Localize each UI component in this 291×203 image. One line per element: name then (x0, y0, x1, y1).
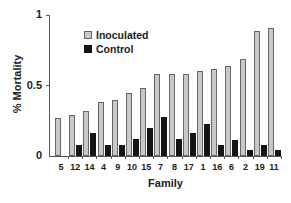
x-tickmark (182, 156, 183, 159)
x-tick-label: 12 (68, 162, 82, 172)
x-tick-label: 10 (125, 162, 139, 172)
x-tickmark (125, 156, 126, 159)
x-tick-label: 11 (267, 162, 281, 172)
bar-control (105, 145, 111, 156)
bar-inoculated (83, 111, 89, 156)
bar-inoculated (154, 74, 160, 156)
bar-inoculated (240, 59, 246, 156)
bar-control (176, 139, 182, 156)
x-tick-label: 9 (111, 162, 125, 172)
bar-inoculated (55, 118, 61, 156)
legend-item-control: Control (84, 42, 149, 56)
bar-control (161, 117, 167, 156)
bar-control (232, 140, 238, 156)
legend-item-inoculated: Inoculated (84, 28, 149, 42)
bar-inoculated (140, 88, 146, 156)
bar-inoculated (183, 74, 189, 156)
legend: Inoculated Control (84, 28, 149, 56)
bar-control (76, 145, 82, 156)
x-tick-label: 7 (153, 162, 167, 172)
x-tick-label: 15 (139, 162, 153, 172)
x-tickmark (139, 156, 140, 159)
y-tickmark (46, 85, 50, 86)
x-tickmark (267, 156, 268, 159)
legend-swatch-control (84, 45, 92, 53)
bar-inoculated (268, 28, 274, 156)
bar-control (133, 139, 139, 156)
bar-control (90, 133, 96, 156)
x-tick-label: 5 (54, 162, 68, 172)
bar-inoculated (211, 69, 217, 156)
y-tickmark (46, 15, 50, 16)
bar-control (119, 145, 125, 156)
bar-inoculated (169, 74, 175, 156)
x-tick-label: 1 (196, 162, 210, 172)
x-tickmark (253, 156, 254, 159)
x-tickmark (167, 156, 168, 159)
x-tick-label: 16 (210, 162, 224, 172)
x-tickmark (68, 156, 69, 159)
bar-inoculated (112, 100, 118, 156)
x-tickmark (196, 156, 197, 159)
x-tick-label: 2 (239, 162, 253, 172)
x-tick-label: 14 (82, 162, 96, 172)
x-tickmark (224, 156, 225, 159)
bar-control (147, 128, 153, 156)
x-axis (49, 156, 281, 157)
legend-label-control: Control (96, 43, 133, 55)
x-tickmark (111, 156, 112, 159)
bar-chart: % Mortality 1 0.5 0 Inoculated Control F… (0, 0, 291, 203)
x-tick-label: 8 (168, 162, 182, 172)
bar-inoculated (254, 31, 260, 156)
y-tick-1: 1 (22, 8, 42, 20)
x-tick-label: 4 (97, 162, 111, 172)
bar-inoculated (225, 66, 231, 156)
x-tick-label: 19 (253, 162, 267, 172)
bar-control (218, 145, 224, 156)
bar-inoculated (98, 102, 104, 156)
y-tick-0-5: 0.5 (22, 79, 42, 91)
y-tick-0: 0 (22, 149, 42, 161)
bar-control (261, 145, 267, 156)
bar-inoculated (69, 115, 75, 156)
x-tick-label: 6 (224, 162, 238, 172)
x-tickmark (210, 156, 211, 159)
legend-swatch-inoculated (84, 31, 92, 39)
x-tickmark (153, 156, 154, 159)
legend-label-inoculated: Inoculated (96, 29, 149, 41)
x-tickmark (281, 156, 282, 159)
bar-inoculated (126, 93, 132, 156)
x-tickmark (96, 156, 97, 159)
x-tickmark (82, 156, 83, 159)
x-tick-label: 17 (182, 162, 196, 172)
bar-control (190, 133, 196, 156)
bar-inoculated (197, 71, 203, 156)
x-tickmark (238, 156, 239, 159)
bar-control (204, 124, 210, 156)
x-axis-label: Family (0, 177, 291, 189)
